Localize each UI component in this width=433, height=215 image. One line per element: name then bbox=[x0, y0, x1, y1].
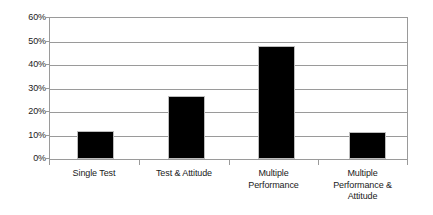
x-axis-tick-mark bbox=[318, 160, 319, 165]
bar-test-attitude bbox=[168, 96, 205, 159]
bar-multiple-performance bbox=[258, 46, 295, 159]
x-axis-category-line: Performance bbox=[229, 180, 318, 192]
gridline bbox=[50, 42, 407, 43]
x-axis-tick-mark bbox=[49, 160, 50, 165]
bar-chart: 60% 50% 40% 30% 20% 10% 0% Single Test T… bbox=[0, 0, 433, 215]
x-axis-category-line: Multiple bbox=[318, 168, 407, 180]
x-axis-category-line: Test & Attitude bbox=[139, 168, 229, 180]
gridline bbox=[50, 112, 407, 113]
y-axis-tick-label: 10% bbox=[2, 131, 46, 140]
y-axis-tick-label: 30% bbox=[2, 84, 46, 93]
bar-multiple-performance-attitude bbox=[349, 132, 386, 159]
y-axis-tick-label: 50% bbox=[2, 37, 46, 46]
x-axis-category-line: Single Test bbox=[49, 168, 139, 180]
x-axis-category-label-2: Multiple Performance bbox=[229, 168, 318, 191]
y-axis-tick-label: 40% bbox=[2, 60, 46, 69]
x-axis-tick-mark bbox=[407, 160, 408, 165]
x-axis-tick-mark bbox=[229, 160, 230, 165]
y-axis-tick-label: 0% bbox=[2, 154, 46, 163]
y-axis-tick-label: 60% bbox=[2, 13, 46, 22]
x-axis-category-line: Performance & bbox=[318, 180, 407, 192]
plot-area bbox=[49, 17, 408, 160]
gridline bbox=[50, 89, 407, 90]
x-axis-category-line: Multiple bbox=[229, 168, 318, 180]
y-axis: 60% 50% 40% 30% 20% 10% 0% bbox=[0, 0, 46, 215]
bar-single-test bbox=[77, 131, 114, 159]
y-axis-tick-label: 20% bbox=[2, 107, 46, 116]
x-axis-category-line: Attitude bbox=[318, 191, 407, 203]
x-axis-category-label-3: Multiple Performance & Attitude bbox=[318, 168, 407, 203]
x-axis-tick-mark bbox=[139, 160, 140, 165]
gridline bbox=[50, 65, 407, 66]
x-axis-category-label-1: Test & Attitude bbox=[139, 168, 229, 180]
x-axis-category-label-0: Single Test bbox=[49, 168, 139, 180]
